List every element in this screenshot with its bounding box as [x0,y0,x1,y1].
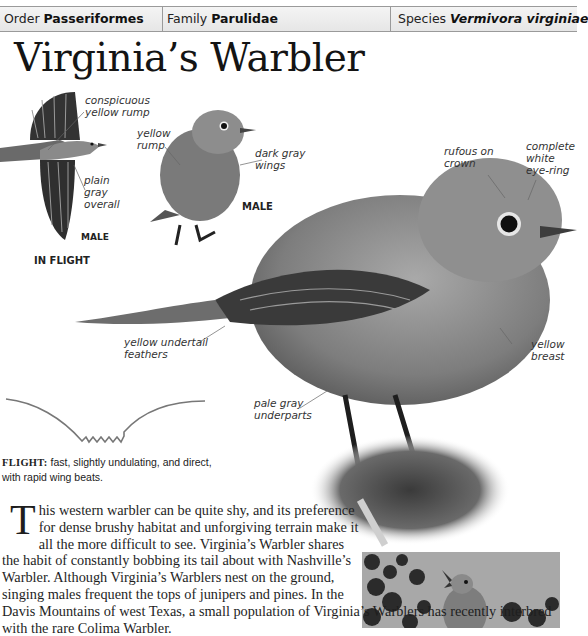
perched-sex-label: MALE [242,201,273,212]
label-pale-gray-underparts: pale gray underparts [254,397,312,421]
flight-description: FLIGHT: fast, slightly undulating, and d… [2,455,232,485]
label-conspicuous-yellow-rump: conspicuous yellow rump [85,94,150,118]
drop-cap: T [10,503,36,537]
species-description: This western warbler can be quite shy, a… [2,502,574,636]
label-complete-white-eye-ring: complete white eye-ring [526,140,575,176]
label-dark-gray-wings: dark gray wings [255,147,305,171]
in-flight-caption: IN FLIGHT [34,255,90,266]
label-plain-gray-overall: plain gray overall [84,174,120,210]
flight-key: FLIGHT: [2,457,48,468]
flight-path-icon [6,399,205,442]
label-yellow-breast: yellow breast [531,338,565,362]
label-yellow-undertail-feathers: yellow undertail feathers [124,336,208,360]
label-yellow-rump: yellow rump [137,127,171,151]
flight-sex-label: MALE [81,232,109,242]
label-rufous-on-crown: rufous on crown [444,145,494,169]
description-text: his western warbler can be quite shy, an… [2,502,551,636]
